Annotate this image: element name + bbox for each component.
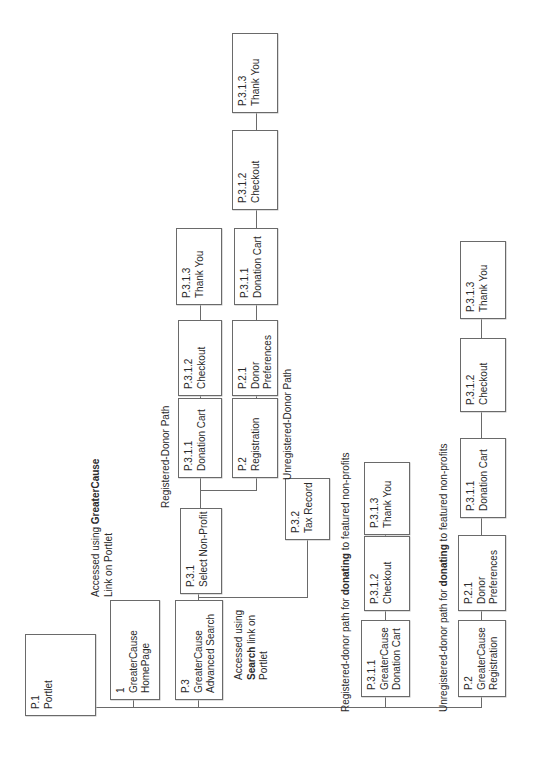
connector [256,210,257,228]
node-id: P.3.2 [290,483,303,533]
node-title: Checkout [382,541,395,604]
label-featured-registered-path: Registered-donor path for donating to fe… [340,452,353,712]
node-title: Thank You [382,467,395,528]
node-id: P.3.1.3 [237,38,250,106]
node-title: GreaterCause [128,605,141,693]
node-feat-unreg-thank-you[interactable]: P.3.1.3 Thank You [460,241,506,319]
node-id: P.3.1.3 [369,467,382,528]
node-id: P.3.1.2 [237,135,250,203]
node-title: Donation Cart [252,233,265,298]
node-id: P.3.1.1 [366,625,379,690]
node-title-2: Preferences [262,325,275,389]
node-advanced-search[interactable]: P.3 GreaterCause Advanced Search [175,600,223,700]
connector [256,305,257,320]
node-title: GreaterCause [476,625,489,690]
connector [385,697,386,708]
node-feat-unreg-donor-preferences[interactable]: P.2.1 Donor Preferences [458,535,506,611]
connector [481,319,482,338]
node-title: GreaterCause [379,625,392,690]
node-id: P.3.1.3 [465,246,478,312]
node-title-2: Advanced Search [205,605,218,693]
node-id: P.3.1 [185,513,198,587]
node-title: Checkout [196,325,209,389]
node-id: P.3.1.1 [239,233,252,298]
node-title: Registration [250,403,263,471]
connector [198,700,199,708]
label-search-access: Accessed using Search link on Portlet [233,610,271,680]
node-id: P.3.1.2 [183,325,196,389]
connector [200,490,257,491]
node-tax-record[interactable]: P.3.2 Tax Record [285,478,330,540]
node-title: Donation Cart [196,403,209,471]
trunk-line [96,707,482,708]
node-portlet[interactable]: P.1 Portlet [25,634,96,716]
label-featured-unregistered-path: Unregistered-donor path for donating to … [438,444,451,712]
node-title: Thank You [250,38,263,106]
node-id: 1 [115,605,128,693]
node-title-2: HomePage [140,605,153,693]
connector [256,113,257,130]
node-id: P.3.1.2 [369,541,382,604]
label-unregistered-path: Unregistered-Donor Path [282,369,295,480]
node-title: Donor [476,540,489,604]
connector [481,412,482,438]
node-title: Tax Record [303,483,316,533]
node-feat-unreg-registration[interactable]: P.2 GreaterCause Registration [458,620,506,697]
connector [200,305,201,320]
connector [307,540,308,598]
node-id: P.3 [180,605,193,693]
node-title: Thank You [478,246,491,312]
node-reg-thank-you[interactable]: P.3.1.3 Thank You [176,228,222,305]
node-unreg-donor-preferences[interactable]: P.2.1 Donor Preferences [232,320,278,396]
node-id: P.3.1.1 [465,443,478,511]
node-id: P.2 [463,625,476,690]
site-flow-diagram: P.1 Portlet 1 GreaterCause HomePage P.3 … [0,0,538,761]
connector [256,478,257,491]
node-title: Donor [250,325,263,389]
node-title: Thank You [194,233,207,298]
node-feat-reg-checkout[interactable]: P.3.1.2 Checkout [364,536,410,611]
node-unreg-checkout[interactable]: P.3.1.2 Checkout [232,130,278,210]
node-feat-unreg-donation-cart[interactable]: P.3.1.1 Donation Cart [460,438,506,518]
node-title-2: Registration [488,625,501,690]
connector [133,700,134,708]
label-registered-path: Registered-Donor Path [160,406,173,508]
node-unreg-donation-cart[interactable]: P.3.1.1 Donation Cart [234,228,278,305]
node-title: Checkout [250,135,263,203]
node-id: P.1 [30,639,43,709]
node-title: Donation Cart [478,443,491,511]
node-id: P.2.1 [237,325,250,389]
connector [200,478,201,508]
node-id: P.2.1 [463,540,476,604]
node-unreg-registration[interactable]: P.2 Registration [232,398,278,478]
node-title-2: Preferences [488,540,501,604]
node-id: P.3.1.2 [465,343,478,405]
node-homepage[interactable]: 1 GreaterCause HomePage [110,600,160,700]
connector [198,597,308,598]
node-feat-reg-donation-cart[interactable]: P.3.1.1 GreaterCause Donation Cart [361,620,410,697]
node-title: Select Non-Profit [198,513,211,587]
node-reg-checkout[interactable]: P.3.1.2 Checkout [178,320,222,396]
node-title: Checkout [478,343,491,405]
connector [481,697,482,708]
node-reg-donation-cart[interactable]: P.3.1.1 Donation Cart [178,398,222,478]
node-title-2: Donation Cart [391,625,404,690]
node-feat-reg-thank-you[interactable]: P.3.1.3 Thank You [364,462,410,535]
label-homepage-access: Accessed using GreaterCause Link on Port… [90,459,115,597]
node-title: Portlet [43,639,56,709]
node-id: P.3.1.1 [183,403,196,471]
node-id: P.2 [237,403,250,471]
connector [481,518,482,535]
node-select-non-profit[interactable]: P.3.1 Select Non-Profit [180,508,222,594]
node-unreg-thank-you[interactable]: P.3.1.3 Thank You [232,33,278,113]
node-feat-unreg-checkout[interactable]: P.3.1.2 Checkout [460,338,506,412]
node-title: GreaterCause [193,605,206,693]
node-id: P.3.1.3 [181,233,194,298]
